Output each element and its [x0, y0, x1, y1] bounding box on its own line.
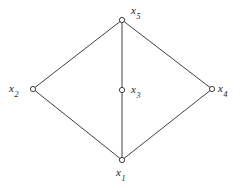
node-label-base-x1: x [116, 166, 121, 178]
edge-x4-x1 [122, 89, 212, 160]
node-x1[interactable] [119, 157, 124, 162]
node-label-x1: x1 [116, 167, 125, 181]
nodes-group [30, 17, 214, 162]
node-x5[interactable] [119, 17, 124, 22]
node-label-x5: x5 [131, 5, 140, 19]
node-x3[interactable] [119, 87, 124, 92]
node-label-subscript-x3: 3 [137, 91, 141, 100]
edge-x2-x1 [33, 89, 122, 160]
graph-svg [0, 0, 245, 188]
node-x4[interactable] [209, 86, 214, 91]
edge-x5-x2 [33, 20, 122, 89]
node-x2[interactable] [30, 86, 35, 91]
node-label-subscript-x1: 1 [122, 174, 126, 183]
node-label-base-x2: x [9, 82, 14, 94]
node-label-subscript-x5: 5 [137, 12, 141, 21]
node-label-base-x4: x [218, 82, 223, 94]
node-label-x2: x2 [9, 83, 18, 97]
node-label-subscript-x2: 2 [15, 90, 19, 99]
node-label-subscript-x4: 4 [224, 90, 228, 99]
edge-x5-x4 [122, 20, 212, 89]
node-label-x4: x4 [218, 83, 227, 97]
graph-diagram-canvas: x5x2x3x4x1 [0, 0, 245, 188]
node-label-base-x5: x [131, 4, 136, 16]
node-label-base-x3: x [131, 83, 136, 95]
node-label-x3: x3 [131, 84, 140, 98]
